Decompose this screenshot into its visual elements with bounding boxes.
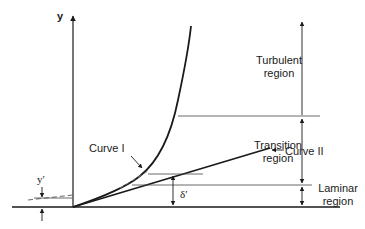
- curve-2-line: [73, 148, 270, 207]
- turbulent-label-line2: region: [248, 67, 310, 80]
- laminar-label-line2: region: [313, 195, 363, 208]
- dashed-extension: [28, 195, 73, 200]
- transition-region-label: Transition region: [248, 139, 308, 165]
- laminar-label-line1: Laminar: [313, 182, 363, 195]
- turbulent-region-label: Turbulent region: [248, 54, 310, 80]
- transition-label-line1: Transition: [248, 139, 308, 152]
- curve-1-label: Curve I: [89, 142, 124, 155]
- delta-prime-label: δ′: [180, 188, 188, 201]
- curve-1-leader: [131, 156, 142, 168]
- y-prime-label: y′: [37, 173, 45, 186]
- y-axis-label: y: [57, 10, 63, 23]
- turbulent-label-line1: Turbulent: [248, 54, 310, 67]
- transition-label-line2: region: [248, 152, 308, 165]
- laminar-region-label: Laminar region: [313, 182, 363, 208]
